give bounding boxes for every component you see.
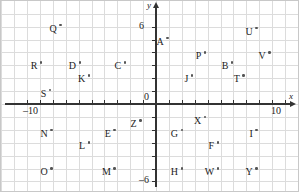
x-axis-tick: [195, 100, 196, 104]
point-label: I: [249, 128, 252, 139]
point-marker-icon: [139, 119, 141, 121]
grid-line-horizontal: [1, 181, 298, 182]
grid-line-vertical: [195, 1, 196, 191]
x-axis-tick: [117, 100, 118, 104]
point-marker-icon: [79, 61, 81, 63]
x-axis-label: x: [289, 91, 293, 101]
point-label: H: [171, 166, 178, 177]
point-marker-icon: [181, 129, 183, 131]
point-label: U: [246, 26, 253, 37]
x-axis-tick: [40, 100, 41, 104]
point-marker-icon: [255, 129, 257, 131]
point-label: R: [31, 60, 38, 71]
grid-line-horizontal: [1, 40, 298, 41]
point-marker-icon: [231, 61, 233, 63]
x-axis-tick: [221, 100, 222, 104]
y-axis-tick: [152, 169, 156, 170]
x-tick-label: 0: [144, 91, 149, 102]
x-tick-label: 10: [271, 105, 281, 116]
point-marker-icon: [255, 167, 257, 169]
x-axis-tick: [130, 100, 131, 104]
point-label: P: [196, 50, 202, 61]
x-axis-tick: [285, 100, 286, 104]
grid-line-vertical: [130, 1, 131, 191]
y-axis-tick: [152, 117, 156, 118]
x-axis-tick: [79, 100, 80, 104]
point-marker-icon: [166, 37, 168, 39]
y-axis-tick: [152, 156, 156, 157]
grid-line-vertical: [259, 1, 260, 191]
point-marker-icon: [204, 51, 206, 53]
grid-line-vertical: [27, 1, 28, 191]
y-axis-arrow-icon: [153, 2, 159, 8]
point-label: B: [222, 60, 229, 71]
grid-line-horizontal: [1, 65, 298, 66]
grid-line-vertical: [92, 1, 93, 191]
grid-line-vertical: [66, 1, 67, 191]
point-label: Q: [50, 23, 57, 34]
point-label: E: [105, 128, 111, 139]
point-marker-icon: [50, 129, 52, 131]
grid-line-horizontal: [1, 156, 298, 157]
point-marker-icon: [124, 61, 126, 63]
point-label: J: [184, 73, 188, 84]
point-label: X: [194, 115, 201, 126]
grid-line-vertical: [117, 1, 118, 191]
grid-line-horizontal: [1, 14, 298, 15]
point-marker-icon: [88, 141, 90, 143]
point-label: W: [205, 166, 214, 177]
grid-line-vertical: [169, 1, 170, 191]
x-axis-tick: [246, 100, 247, 104]
grid-line-vertical: [233, 1, 234, 191]
point-marker-icon: [191, 74, 193, 76]
y-tick-label: –6: [139, 174, 149, 185]
point-label: K: [78, 73, 85, 84]
point-marker-icon: [50, 167, 52, 169]
grid-line-vertical: [208, 1, 209, 191]
grid-line-vertical: [182, 1, 183, 191]
grid-line-vertical: [285, 1, 286, 191]
point-marker-icon: [113, 167, 115, 169]
grid-line-vertical: [298, 1, 299, 191]
y-axis-tick: [152, 143, 156, 144]
point-label: Z: [131, 118, 137, 129]
point-label: F: [209, 140, 215, 151]
y-axis-tick: [152, 65, 156, 66]
y-axis-tick: [152, 27, 156, 28]
y-axis-tick: [152, 40, 156, 41]
point-label: A: [157, 36, 164, 47]
y-axis-label: y: [147, 0, 151, 10]
point-marker-icon: [242, 74, 244, 76]
x-axis-tick: [182, 100, 183, 104]
coordinate-plane: x y –100106–6 QAURDCPVKBJTSZXNEGILFOMHWY: [0, 0, 299, 192]
point-marker-icon: [268, 51, 270, 53]
point-label: C: [115, 60, 122, 71]
point-label: V: [258, 50, 265, 61]
grid-line-horizontal: [1, 27, 298, 28]
point-label: T: [234, 73, 240, 84]
x-axis-tick: [233, 100, 234, 104]
point-label: D: [69, 60, 76, 71]
point-label: L: [79, 140, 85, 151]
point-marker-icon: [255, 27, 257, 29]
x-axis-tick: [92, 100, 93, 104]
y-tick-label: 6: [139, 20, 144, 31]
x-axis-tick: [104, 100, 105, 104]
point-label: Y: [246, 166, 253, 177]
y-axis-tick: [152, 130, 156, 131]
point-marker-icon: [204, 116, 206, 118]
point-marker-icon: [217, 167, 219, 169]
x-axis-tick: [259, 100, 260, 104]
x-axis-arrow-icon: [290, 101, 296, 107]
y-axis-tick: [152, 78, 156, 79]
point-marker-icon: [113, 129, 115, 131]
y-axis-tick: [152, 181, 156, 182]
x-axis-tick: [53, 100, 54, 104]
point-marker-icon: [217, 141, 219, 143]
point-label: G: [171, 128, 178, 139]
point-label: O: [40, 166, 47, 177]
x-tick-label: –10: [23, 105, 38, 116]
grid-line-vertical: [272, 1, 273, 191]
grid-line-horizontal: [1, 117, 298, 118]
grid-line-horizontal: [1, 78, 298, 79]
